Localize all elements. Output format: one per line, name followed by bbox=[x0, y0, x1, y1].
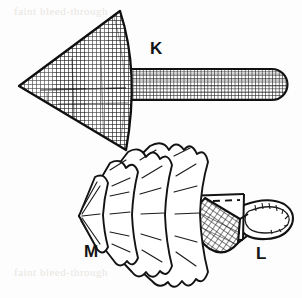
ghost-text-bottom: faint bleed-through bbox=[14, 266, 108, 279]
part-k-group bbox=[19, 11, 288, 151]
figure-label-m: M bbox=[84, 243, 98, 260]
figure-label-k: K bbox=[150, 40, 162, 57]
ghost-text-top: faint bleed-through bbox=[14, 5, 108, 18]
loop-buckle bbox=[239, 200, 293, 239]
part-k-wedge bbox=[19, 11, 132, 151]
figure-label-l: L bbox=[256, 245, 266, 262]
part-k-stem bbox=[131, 69, 288, 100]
